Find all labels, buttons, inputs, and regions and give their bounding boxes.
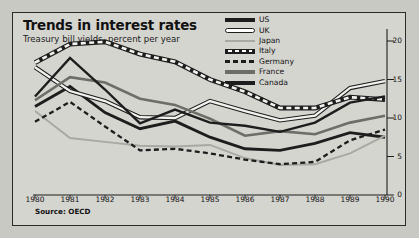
- x-tick-label: 1988: [306, 195, 325, 204]
- chart-screenshot: Trends in interest rates Treasury bill y…: [0, 0, 419, 238]
- x-tick-label: 1986: [236, 195, 255, 204]
- y-tick-label: 5: [397, 153, 402, 161]
- y-tick-label: 15: [393, 76, 402, 84]
- x-tick-label: 1980: [26, 195, 45, 204]
- chart-figure: Trends in interest rates Treasury bill y…: [12, 12, 406, 226]
- y-tick-label: 20: [393, 37, 402, 45]
- source-note: Source: OECD: [35, 207, 91, 216]
- x-tick-label: 1990: [376, 195, 395, 204]
- x-tick-label: 1983: [131, 195, 150, 204]
- x-tick-label: 1982: [96, 195, 115, 204]
- series-line-germany: [35, 102, 385, 164]
- x-tick-label: 1985: [201, 195, 220, 204]
- series-line-france: [35, 77, 385, 136]
- x-tick-label: 1984: [166, 195, 185, 204]
- x-tick-label: 1987: [271, 195, 290, 204]
- y-tick-label: 10: [393, 114, 402, 122]
- x-tick-label: 1981: [61, 195, 80, 204]
- x-tick-label: 1989: [341, 195, 360, 204]
